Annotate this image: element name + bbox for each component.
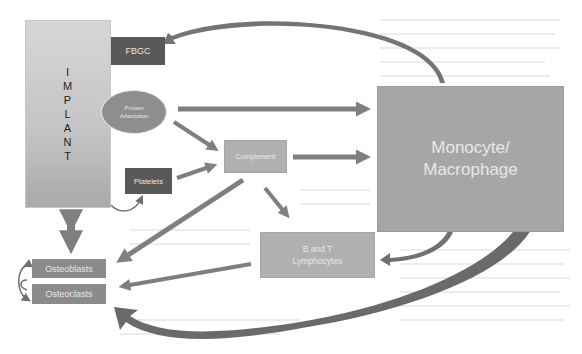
platelets-box: Platelets xyxy=(125,168,172,194)
lymphocytes-box: B and T Lymphocytes xyxy=(260,232,375,278)
implant-letter: N xyxy=(64,135,73,149)
arrow-platelets-to-complement xyxy=(177,166,212,178)
arrow-osteo-inner xyxy=(21,280,27,290)
monocyte-macrophage-box: Monocyte/ Macrophage xyxy=(377,86,564,232)
lymphocytes-line1: B and T xyxy=(303,243,333,255)
arrow-monocyte-to-fbgc xyxy=(163,21,445,83)
implant-box: I M P L A N T xyxy=(25,20,111,208)
platelets-label: Platelets xyxy=(134,177,163,186)
implant-letter: M xyxy=(63,79,73,93)
complement-box: Complement xyxy=(224,140,287,173)
protein-adsorption-ellipse: Protein Adsorption xyxy=(101,90,167,134)
protein-adsorption-line2: Adsorption xyxy=(120,112,149,120)
complement-label: Complement xyxy=(236,153,276,160)
implant-letter: P xyxy=(64,93,72,107)
arrow-protein-to-complement xyxy=(174,122,214,148)
osteoblasts-box: Osteoblasts xyxy=(32,259,106,278)
implant-letter: I xyxy=(66,65,70,79)
protein-adsorption-line1: Protein xyxy=(124,104,143,112)
monocyte-line1: Monocyte/ xyxy=(431,137,509,159)
arrow-osteo-cycle xyxy=(19,265,27,299)
monocyte-line2: Macrophage xyxy=(423,159,518,181)
implant-letter: L xyxy=(64,107,71,121)
lymphocytes-line2: Lymphocytes xyxy=(293,255,343,267)
arrow-lymphocytes-to-osteoclasts xyxy=(124,264,251,286)
implant-letter: T xyxy=(64,149,72,163)
osteoclasts-box: Osteoclasts xyxy=(32,284,106,304)
arrow-complement-to-lymphocytes xyxy=(265,188,286,214)
arrow-implant-to-platelets xyxy=(111,199,141,211)
fbgc-box: FBGC xyxy=(111,37,165,65)
osteoclasts-label: Osteoclasts xyxy=(45,289,92,299)
fbgc-label: FBGC xyxy=(125,46,150,56)
implant-letter: A xyxy=(64,121,72,135)
osteoblasts-label: Osteoblasts xyxy=(45,264,93,274)
